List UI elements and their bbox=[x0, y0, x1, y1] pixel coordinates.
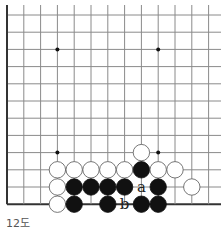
white-stone bbox=[49, 179, 65, 195]
black-stone bbox=[66, 179, 82, 195]
star-point bbox=[55, 151, 59, 155]
white-stone bbox=[150, 162, 166, 178]
black-stone bbox=[100, 196, 116, 212]
diagram-caption: 12도 bbox=[6, 214, 30, 230]
star-point bbox=[156, 151, 160, 155]
point-label-b: b bbox=[120, 195, 130, 213]
go-board: ab bbox=[0, 0, 224, 230]
white-stone bbox=[49, 162, 65, 178]
black-stone bbox=[150, 196, 166, 212]
white-stone bbox=[116, 162, 132, 178]
white-stone bbox=[100, 162, 116, 178]
white-stone bbox=[49, 196, 65, 212]
black-stone bbox=[133, 162, 149, 178]
star-point bbox=[156, 47, 160, 51]
black-stone bbox=[100, 179, 116, 195]
white-stone bbox=[83, 162, 99, 178]
white-stone bbox=[184, 179, 200, 195]
white-stone bbox=[167, 162, 183, 178]
black-stone bbox=[150, 179, 166, 195]
white-stone bbox=[66, 162, 82, 178]
star-point bbox=[55, 47, 59, 51]
point-label-a: a bbox=[137, 178, 146, 196]
white-stone bbox=[133, 144, 149, 160]
black-stone bbox=[133, 196, 149, 212]
black-stone bbox=[66, 196, 82, 212]
black-stone bbox=[83, 179, 99, 195]
black-stone bbox=[116, 179, 132, 195]
